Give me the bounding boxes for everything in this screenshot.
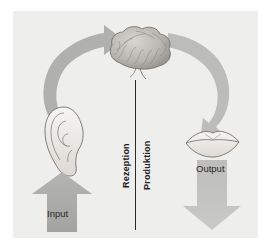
label-output: Output	[196, 163, 225, 174]
arrow-up-icon	[32, 172, 92, 232]
label-input: Input	[47, 208, 68, 219]
ear-icon	[45, 107, 83, 176]
label-rezeption: Rezeption	[121, 143, 131, 188]
speech-cycle-figure: Rezeption Produktion Input Output	[0, 0, 274, 248]
curved-arrow-down-right-icon	[167, 33, 229, 140]
diagram-canvas	[0, 0, 274, 248]
mouth-icon	[186, 131, 239, 157]
label-produktion: Produktion	[142, 141, 152, 191]
vertical-divider	[135, 80, 136, 230]
brain-icon	[110, 27, 170, 79]
